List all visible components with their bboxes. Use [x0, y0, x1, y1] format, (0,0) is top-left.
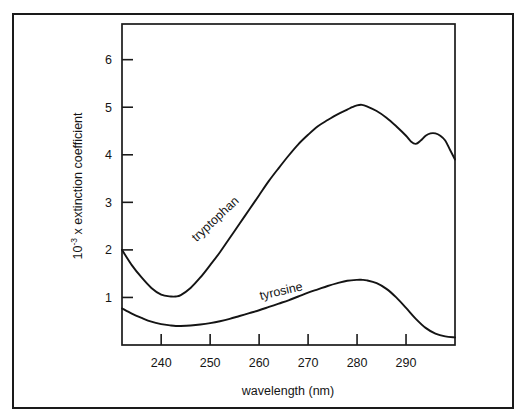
x-tick-label-280: 280: [347, 356, 368, 370]
y-tick-label-6: 6: [105, 53, 112, 67]
y-tick-label-4: 4: [105, 148, 112, 162]
y-axis-tick-group: [122, 60, 133, 298]
figure-root: 123456 240250260270280290 10-3 x extinct…: [0, 0, 528, 420]
svg-text:10-3 x extinction coefficient: 10-3 x extinction coefficient: [69, 112, 85, 260]
spectra-chart: 123456 240250260270280290 10-3 x extinct…: [0, 0, 528, 420]
curve-tryptophan: [122, 105, 455, 297]
y-axis-main-text: x extinction coefficient: [71, 112, 85, 235]
x-tick-label-260: 260: [249, 356, 270, 370]
x-tick-label-250: 250: [200, 356, 221, 370]
x-axis-title: wavelength (nm): [241, 384, 334, 398]
caption-partial-text: [14, 411, 514, 420]
y-axis-tick-labels: 123456: [105, 53, 112, 305]
x-tick-label-290: 290: [396, 356, 417, 370]
series-annotation-group: tryptophantyrosine: [189, 194, 304, 303]
y-tick-label-5: 5: [105, 101, 112, 115]
x-tick-label-240: 240: [151, 356, 172, 370]
x-axis-tick-labels: 240250260270280290: [151, 356, 417, 370]
y-tick-label-2: 2: [105, 243, 112, 257]
data-curves-group: [122, 105, 455, 338]
series-label-text-tyrosine: tyrosine: [258, 279, 304, 302]
y-axis-base: 10: [71, 246, 85, 260]
x-tick-label-270: 270: [298, 356, 319, 370]
series-label-tyrosine: tyrosine: [258, 279, 304, 302]
series-label-text-tryptophan: tryptophan: [189, 194, 242, 245]
y-tick-label-1: 1: [105, 291, 112, 305]
x-axis-tick-group: [161, 334, 406, 345]
series-label-tryptophan: tryptophan: [189, 194, 242, 245]
y-tick-label-3: 3: [105, 196, 112, 210]
y-axis-title: 10-3 x extinction coefficient: [69, 112, 85, 260]
